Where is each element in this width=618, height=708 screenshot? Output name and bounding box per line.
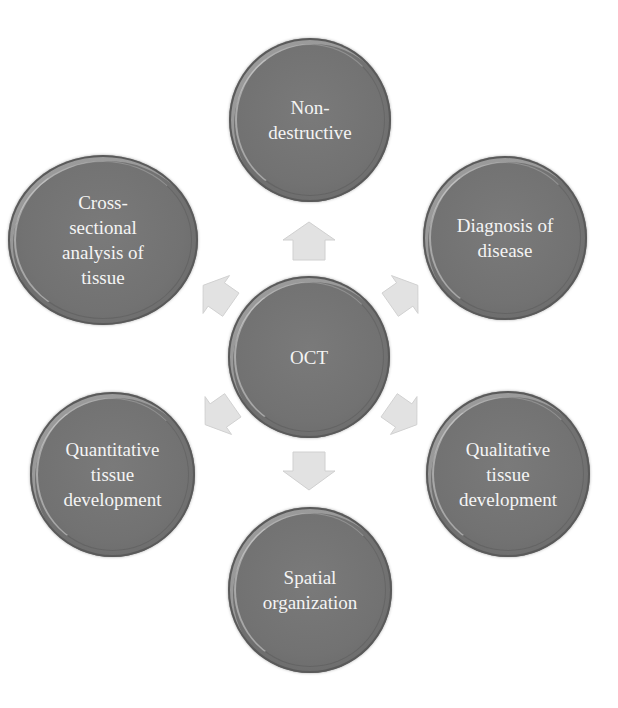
center-node-oct: OCT bbox=[228, 276, 390, 438]
node-diagnosis-of-disease: Diagnosis of disease bbox=[423, 156, 587, 320]
arrow-down-icon bbox=[282, 451, 336, 491]
node-quantitative-tissue-development: Quantitative tissue development bbox=[30, 392, 195, 557]
node-label: Qualitative tissue development bbox=[459, 437, 557, 512]
node-spatial-organization: Spatial organization bbox=[228, 507, 392, 673]
arrow-up-right-icon bbox=[380, 270, 428, 320]
node-cross-sectional-analysis: Cross- sectional analysis of tissue bbox=[8, 155, 198, 325]
node-label: Quantitative tissue development bbox=[63, 437, 161, 512]
arrow-up-left-icon bbox=[193, 270, 241, 320]
node-label: Non- destructive bbox=[268, 95, 351, 145]
node-label: Spatial organization bbox=[263, 565, 358, 615]
node-qualitative-tissue-development: Qualitative tissue development bbox=[426, 391, 590, 557]
node-label: Diagnosis of disease bbox=[457, 213, 554, 263]
arrow-down-left-icon bbox=[195, 390, 243, 440]
arrow-down-right-icon bbox=[379, 390, 427, 440]
arrow-up-icon bbox=[282, 221, 336, 261]
node-label: Cross- sectional analysis of tissue bbox=[62, 190, 144, 290]
node-non-destructive: Non- destructive bbox=[229, 38, 391, 202]
center-node-label: OCT bbox=[290, 345, 328, 370]
